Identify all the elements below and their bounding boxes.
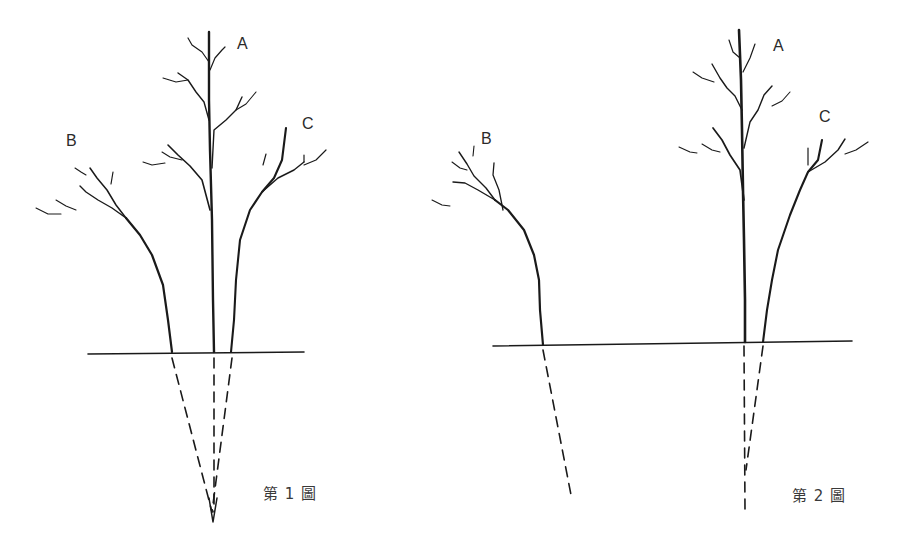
figure-2-root-projection	[543, 346, 763, 510]
figure-1-label-c: C	[302, 116, 314, 132]
figure-2-label-c: C	[819, 109, 831, 125]
figure-2-tree-c	[763, 139, 868, 342]
tree-illustration	[0, 0, 899, 543]
figure-1-label-a: A	[237, 36, 248, 52]
figure-2-caption: 第 2 圖	[792, 489, 846, 504]
figure-2-tree-b	[432, 146, 543, 345]
figure-2-label-b: B	[481, 131, 492, 147]
figure-2-label-a: A	[773, 38, 784, 54]
figure-2-drawing	[432, 30, 868, 510]
figure-1-tree-a	[143, 32, 256, 352]
figure-1-label-b: B	[66, 133, 77, 149]
figure-1-tree-c	[231, 128, 326, 352]
figure-1-ground-line	[88, 352, 304, 354]
figure-1-root-projection	[172, 358, 232, 512]
figure-2-ground-line	[493, 341, 852, 346]
figure-1-drawing	[36, 32, 326, 522]
figure-2-tree-a	[679, 30, 790, 342]
diagram-canvas: A B C 第 1 圖 A B C 第 2 圖	[0, 0, 899, 543]
figure-1-caption: 第 1 圖	[263, 487, 317, 502]
figure-1-tree-b	[36, 168, 172, 352]
